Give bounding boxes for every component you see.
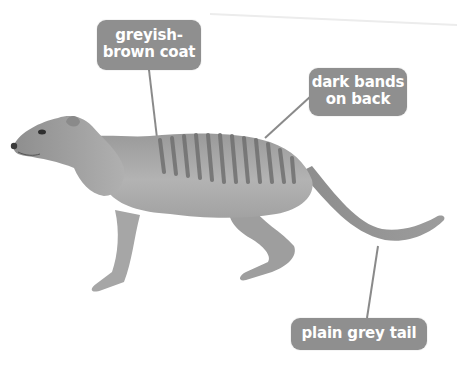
tail xyxy=(300,166,444,241)
label-greyish-brown-coat: greyish- brown coat xyxy=(97,20,201,70)
leader-line-bands xyxy=(265,96,311,138)
label-coat-line-2: brown coat xyxy=(97,44,201,61)
nose xyxy=(11,143,17,149)
leader-line-coat xyxy=(149,70,157,138)
leader-line-tail xyxy=(367,246,378,318)
diagram-stage: greyish- brown coat dark bands on back p… xyxy=(0,0,457,365)
label-plain-grey-tail: plain grey tail xyxy=(291,318,427,350)
label-coat-line-1: greyish- xyxy=(97,27,201,44)
label-dark-bands-on-back: dark bands on back xyxy=(309,68,407,116)
page-edge-line xyxy=(210,14,457,25)
label-bands-line-1: dark bands xyxy=(309,74,407,91)
label-bands-line-2: on back xyxy=(309,91,407,108)
head xyxy=(14,116,125,196)
mongoose-illustration xyxy=(0,0,457,365)
label-tail-line-1: plain grey tail xyxy=(291,325,427,342)
eye xyxy=(38,130,46,135)
front-leg xyxy=(92,210,140,292)
